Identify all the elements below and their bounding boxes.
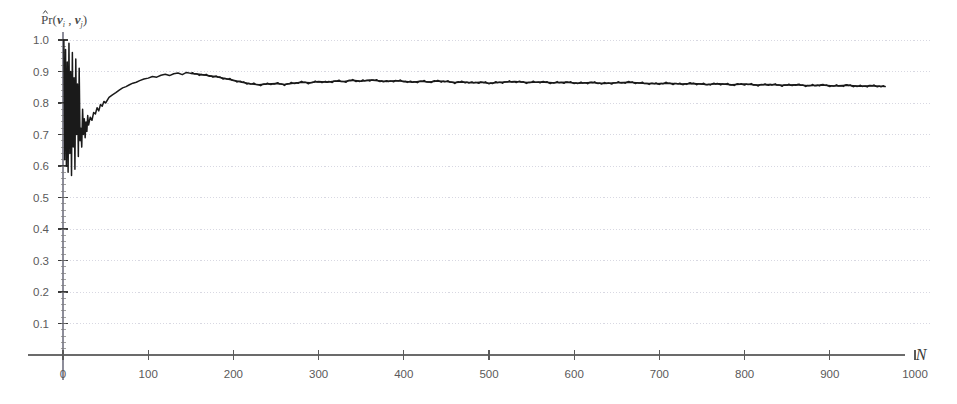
y-tick-label: 0.7 bbox=[33, 129, 49, 141]
y-tick-label: 0.5 bbox=[33, 192, 49, 204]
y-tick-label: 0.9 bbox=[33, 66, 49, 78]
x-tick-label: 1000 bbox=[902, 368, 928, 380]
y-tick-label: 0.1 bbox=[33, 318, 49, 330]
series-line-noise-overlay bbox=[191, 73, 885, 87]
chart-figure: 01002003004005006007008009001000 0.10.20… bbox=[0, 0, 957, 404]
x-tick-label: 0 bbox=[60, 368, 66, 380]
chart-plot-area: 01002003004005006007008009001000 0.10.20… bbox=[0, 0, 957, 404]
y-tick-label: 0.4 bbox=[33, 223, 50, 235]
x-tick-label: 800 bbox=[735, 368, 754, 380]
x-tick-label: 700 bbox=[650, 368, 669, 380]
x-tick-label: 600 bbox=[565, 368, 584, 380]
y-tick-label: 0.6 bbox=[33, 160, 49, 172]
y-axis-label-text: Pr(vi , vj) bbox=[41, 12, 87, 29]
x-axis-label-text: N bbox=[915, 346, 928, 363]
data-series-line bbox=[64, 40, 885, 175]
y-tick-label: 0.2 bbox=[33, 286, 49, 298]
y-tick-label: 0.8 bbox=[33, 97, 49, 109]
y-axis-label: Pr(vi , vj) bbox=[41, 11, 87, 29]
x-axis-tick-labels: 01002003004005006007008009001000 bbox=[60, 368, 928, 380]
x-tick-label: 200 bbox=[224, 368, 243, 380]
y-tick-label: 1.0 bbox=[33, 34, 49, 46]
x-axis-label: N bbox=[915, 346, 928, 363]
x-tick-label: 500 bbox=[479, 368, 498, 380]
x-tick-label: 300 bbox=[309, 368, 328, 380]
x-tick-label: 900 bbox=[820, 368, 839, 380]
y-axis-tick-labels: 0.10.20.30.40.50.60.70.80.91.0 bbox=[33, 34, 50, 330]
y-tick-label: 0.3 bbox=[33, 255, 49, 267]
series-line-estimated-probability bbox=[64, 40, 885, 175]
x-tick-label: 400 bbox=[394, 368, 413, 380]
x-tick-label: 100 bbox=[139, 368, 158, 380]
